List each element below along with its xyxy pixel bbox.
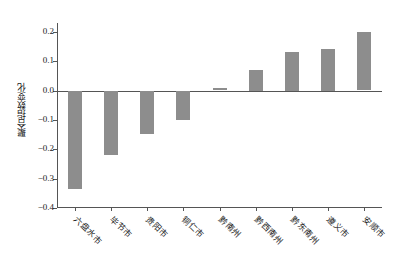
x-tick-label: 黔南州 [216,214,242,240]
bar [213,88,227,91]
x-tick-label: 六盘水市 [72,214,105,247]
bar [249,70,263,91]
y-tick-label: −0.2 [38,143,54,154]
chart-figure: 聚合指数变化 0.20.10.0−0.1−0.2−0.3−0.4 六盘水市毕节市… [0,0,396,259]
x-tick-mark [328,208,329,211]
x-tick-mark [147,208,148,211]
y-axis-title: 聚合指数变化 [14,50,30,170]
plot-area: 0.20.10.0−0.1−0.2−0.3−0.4 六盘水市毕节市贵阳市铜仁市黔… [57,23,382,208]
y-tick-label: −0.1 [38,114,54,125]
bar [357,32,371,90]
x-tick-mark [220,208,221,211]
x-tick-label: 黔东南州 [289,214,322,247]
x-tick-label: 黔西南州 [253,214,286,247]
bar [285,52,299,91]
y-axis-spine [57,23,58,208]
x-tick-label: 毕节市 [108,214,134,240]
x-tick-label: 铜仁市 [180,214,206,240]
x-tick-label: 遵义市 [325,214,351,240]
x-tick-mark [75,208,76,211]
x-tick-mark [364,208,365,211]
x-tick-label: 安顺市 [361,214,387,240]
y-tick-label: 0.0 [43,85,54,96]
x-tick-mark [292,208,293,211]
x-tick-mark [111,208,112,211]
y-tick-label: 0.2 [43,26,54,37]
bar [321,49,335,91]
bar [140,91,154,135]
bar [68,91,82,189]
bar [104,91,118,156]
bar [176,91,190,120]
y-tick-label: 0.1 [43,55,54,66]
x-tick-label: 贵阳市 [144,214,170,240]
x-tick-mark [256,208,257,211]
x-tick-mark [183,208,184,211]
y-tick-label: −0.4 [38,202,54,213]
y-tick-label: −0.3 [38,173,54,184]
